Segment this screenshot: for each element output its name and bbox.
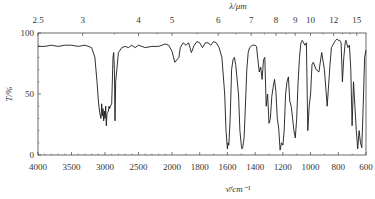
top-tick-label: 6	[216, 15, 221, 25]
top-tick-label: 8	[274, 15, 279, 25]
x-tick-label: 2000	[163, 162, 182, 172]
top-tick-label: 9	[293, 15, 298, 25]
x-tick-label: 600	[359, 162, 373, 172]
top-tick-label: 3	[80, 15, 85, 25]
top-tick-label: 10	[306, 15, 316, 25]
y-tick-label: 0	[30, 150, 35, 160]
plot-frame	[38, 33, 366, 155]
x-tick-label: 1200	[274, 162, 293, 172]
y-tick-label: 100	[21, 28, 35, 38]
x-tick-label: 1800	[191, 162, 210, 172]
x-tick-label: 3500	[63, 162, 82, 172]
top-tick-label: 7	[249, 15, 254, 25]
x-tick-label: 2500	[130, 162, 149, 172]
x-tick-label: 1600	[218, 162, 237, 172]
x-tick-label: 1000	[302, 162, 321, 172]
x-tick-label: 1400	[246, 162, 265, 172]
top-tick-label: 15	[352, 15, 362, 25]
y-axis-label: T/%	[4, 86, 14, 101]
top-tick-label: 2.5	[32, 15, 44, 25]
spectrum-line	[38, 39, 366, 150]
x-tick-label: 4000	[29, 162, 48, 172]
x-tick-label: 3000	[96, 162, 115, 172]
x-axis-label: ν̄/cm⁻¹	[226, 184, 251, 194]
x-tick-label: 800	[332, 162, 346, 172]
top-axis-label: λ/μm	[228, 1, 247, 11]
top-tick-label: 5	[170, 15, 175, 25]
y-tick-label: 50	[25, 89, 35, 99]
ir-spectrum-chart: 2.53456789101215 40003500300025002000180…	[0, 0, 375, 199]
top-tick-label: 12	[329, 15, 338, 25]
top-tick-label: 4	[136, 15, 141, 25]
